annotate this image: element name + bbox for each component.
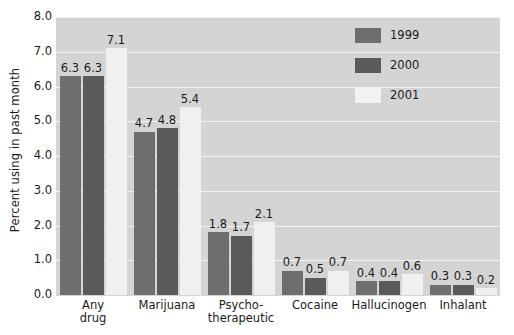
legend-entry-1999[interactable]: 1999 [355,20,465,50]
x-axis-tick-label: Psycho-therapeutic [208,299,274,325]
bar-slot: 1.8 [208,17,229,295]
bar-slot: 6.3 [60,17,81,295]
x-axis-tick-label: Inhalant [439,299,486,312]
bar-slot: 0.7 [328,17,349,295]
bar-value-label: 1.8 [209,219,227,231]
bar-value-label: 6.3 [84,63,102,75]
bar-slot: 2.1 [254,17,275,295]
y-axis-tick-label: 1.0 [24,255,52,267]
bar-chart-figure: Percent using in past month 0.01.02.03.0… [0,0,514,335]
bar-2000[interactable] [379,281,400,295]
legend-label: 1999 [390,28,419,42]
bar-value-label: 0.3 [454,271,472,283]
y-axis-tick-label: 5.0 [24,116,52,128]
y-axis-tick-label: 4.0 [24,150,52,162]
y-axis-title-text: Percent using in past month [8,68,22,232]
bar-2001[interactable] [476,288,497,295]
bar-slot: 1.7 [231,17,252,295]
bar-slot: 0.2 [476,17,497,295]
bar-value-label: 0.4 [357,268,375,280]
bar-2001[interactable] [106,48,127,295]
x-axis-tick-label: Marijuana [139,299,196,312]
bar-2000[interactable] [231,236,252,295]
bar-value-label: 0.4 [380,268,398,280]
legend-label: 2000 [390,58,419,72]
y-axis-tick-label: 0.0 [24,289,52,301]
bar-1999[interactable] [60,76,81,295]
bar-value-label: 5.4 [181,94,199,106]
bar-2001[interactable] [328,271,349,295]
x-axis-tick-label-line: drug [80,312,107,325]
x-axis-tick-label: Anydrug [80,299,107,325]
bar-value-label: 0.6 [403,261,421,273]
legend-label: 2001 [390,88,419,102]
x-axis-tick-label-line: Psycho- [219,298,264,312]
bar-group: 4.74.85.4 [134,17,201,295]
bar-slot: 0.7 [282,17,303,295]
bar-group: 1.81.72.1 [208,17,275,295]
x-axis-tick-labels: AnydrugMarijuanaPsycho-therapeuticCocain… [56,299,500,335]
bar-2000[interactable] [157,128,178,295]
bar-value-label: 0.5 [306,264,324,276]
legend-swatch [355,88,381,103]
x-axis-tick-label-line: Inhalant [439,298,486,312]
legend-entry-2000[interactable]: 2000 [355,50,465,80]
bar-2000[interactable] [453,285,474,295]
bar-value-label: 2.1 [255,209,273,221]
bar-1999[interactable] [134,132,155,295]
bar-value-label: 0.7 [283,257,301,269]
bar-value-label: 7.1 [107,35,125,47]
bar-2000[interactable] [305,278,326,295]
bar-slot: 7.1 [106,17,127,295]
bar-value-label: 6.3 [61,63,79,75]
x-axis-tick-label: Hallucinogen [352,299,427,312]
bar-slot: 5.4 [180,17,201,295]
bar-1999[interactable] [356,281,377,295]
legend-swatch [355,58,381,73]
bar-value-label: 0.7 [329,257,347,269]
y-axis-tick-label: 3.0 [24,185,52,197]
bar-slot: 6.3 [83,17,104,295]
bar-2001[interactable] [180,107,201,295]
bar-group: 0.70.50.7 [282,17,349,295]
y-axis-tick-label: 7.0 [24,46,52,58]
legend-swatch [355,28,381,43]
bar-1999[interactable] [282,271,303,295]
bar-slot: 0.5 [305,17,326,295]
bar-value-label: 1.7 [232,222,250,234]
bar-1999[interactable] [208,232,229,295]
y-axis-tick-labels: 0.01.02.03.04.05.06.07.08.0 [24,17,52,295]
x-axis-tick-label-line: Hallucinogen [352,298,427,312]
bar-slot: 4.8 [157,17,178,295]
bar-2000[interactable] [83,76,104,295]
bar-slot: 4.7 [134,17,155,295]
x-axis-tick-label-line: Any [82,298,104,312]
x-axis-tick-label-line: therapeutic [208,312,274,325]
y-axis-tick-label: 6.0 [24,81,52,93]
bar-value-label: 0.2 [477,275,495,287]
bar-value-label: 4.7 [135,118,153,130]
gridline [56,295,500,296]
bar-2001[interactable] [254,222,275,295]
bar-value-label: 4.8 [158,115,176,127]
x-axis-tick-label-line: Cocaine [292,298,338,312]
bar-value-label: 0.3 [431,271,449,283]
bar-1999[interactable] [430,285,451,295]
x-axis-tick-label-line: Marijuana [139,298,196,312]
legend-entry-2001[interactable]: 2001 [355,80,465,110]
bar-2001[interactable] [402,274,423,295]
x-axis-tick-label: Cocaine [292,299,338,312]
y-axis-tick-label: 2.0 [24,220,52,232]
y-axis-tick-label: 8.0 [24,11,52,23]
legend: 199920002001 [355,20,465,110]
bar-group: 6.36.37.1 [60,17,127,295]
